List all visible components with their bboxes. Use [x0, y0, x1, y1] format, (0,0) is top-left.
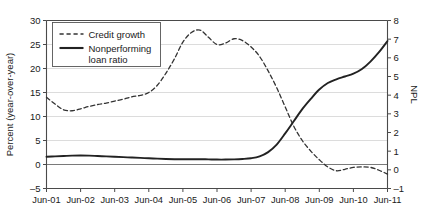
x-tick-label: Jun-07	[237, 195, 265, 205]
y-axis-title: Percent (year-over-year)	[4, 53, 15, 156]
x-tick-label: Jun-08	[271, 195, 299, 205]
y2-tick-label: 3	[394, 108, 399, 119]
x-tick-label: Jun-09	[305, 195, 333, 205]
x-tick-label: Jun-06	[203, 195, 231, 205]
y2-tick-label: 7	[394, 34, 399, 45]
legend-label-npl-line2: loan ratio	[89, 54, 128, 65]
y2-axis-title: NPL	[409, 85, 420, 103]
x-tick-label: Jun-05	[169, 195, 197, 205]
y2-tick-label: 0	[394, 164, 399, 175]
y2-tick-label: 8	[394, 15, 399, 26]
y2-tick-label: 4	[394, 90, 399, 101]
y-tick-label: 0	[35, 159, 40, 170]
credit-growth-npl-line-chart: 302520151050–5 876543210–1 Jun-01Jun-02J…	[0, 0, 422, 218]
legend-label-npl: Nonperforming	[89, 43, 152, 54]
y-tick-label: 15	[30, 87, 41, 98]
x-tick-label: Jun-02	[66, 195, 94, 205]
y-tick-label: 25	[30, 39, 41, 50]
x-tick-label: Jun-01	[32, 195, 60, 205]
y2-tick-label: –1	[394, 183, 405, 194]
y2-tick-label: 6	[394, 52, 399, 63]
y-tick-label: –5	[30, 183, 41, 194]
y2-tick-label: 2	[394, 127, 399, 138]
x-tick-label: Jun-10	[339, 195, 367, 205]
y-tick-label: 5	[35, 135, 40, 146]
x-tick-label: Jun-04	[135, 195, 163, 205]
x-tick-label: Jun-03	[100, 195, 128, 205]
y2-tick-label: 5	[394, 71, 399, 82]
y-tick-label: 30	[30, 15, 41, 26]
legend-label-credit-growth: Credit growth	[89, 29, 146, 40]
y-tick-label: 10	[30, 111, 41, 122]
y-tick-label: 20	[30, 63, 41, 74]
y2-tick-label: 1	[394, 146, 399, 157]
chart-legend: Credit growthNonperformingloan ratio	[53, 23, 161, 67]
x-tick-label: Jun-11	[374, 195, 402, 205]
chart-container: 302520151050–5 876543210–1 Jun-01Jun-02J…	[0, 0, 422, 218]
